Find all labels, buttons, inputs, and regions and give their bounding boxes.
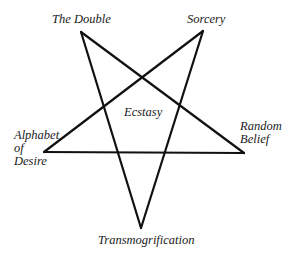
edge-random-belief-to-double — [81, 32, 244, 153]
vertex-label-transmogrification: Transmogrification — [98, 234, 195, 247]
edge-sorcery-to-alphabet — [44, 31, 203, 152]
center-label-ecstasy: Ecstasy — [124, 106, 162, 119]
edge-alphabet-to-random-belief — [44, 152, 244, 153]
edge-transmogrification-to-sorcery — [141, 31, 203, 228]
vertex-label-line: Desire — [14, 155, 59, 168]
pentagram-diagram: The Double Sorcery Alphabet of Desire Ra… — [0, 0, 290, 258]
vertex-label-alphabet-of-desire: Alphabet of Desire — [14, 129, 59, 168]
edge-double-to-transmogrification — [81, 32, 141, 228]
vertex-label-line: Belief — [240, 133, 282, 146]
vertex-label-the-double: The Double — [52, 13, 111, 26]
vertex-label-sorcery: Sorcery — [187, 13, 225, 26]
vertex-label-random-belief: Random Belief — [240, 120, 282, 146]
